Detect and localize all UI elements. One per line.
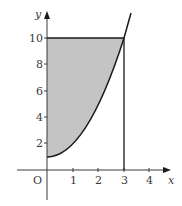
diagram-canvas: y x O 1 2 3 4 2 4 6 8 10 — [0, 0, 182, 206]
y-tick-label: 2 — [36, 137, 43, 150]
x-tick-label: 4 — [146, 174, 153, 187]
y-tick-label: 10 — [29, 32, 43, 45]
x-tick-label: 2 — [95, 174, 102, 187]
y-axis-label: y — [34, 8, 42, 21]
x-axis-arrow-icon — [163, 167, 171, 173]
origin-label: O — [33, 174, 42, 187]
x-axis-label: x — [168, 174, 175, 187]
y-tick-label: 6 — [36, 85, 43, 98]
y-tick-label: 4 — [36, 111, 43, 124]
shaded-region — [47, 38, 124, 157]
x-tick-label: 3 — [121, 174, 128, 187]
y-tick-label: 8 — [36, 58, 43, 71]
x-tick-label: 1 — [70, 174, 77, 187]
y-axis-arrow-icon — [44, 11, 50, 19]
